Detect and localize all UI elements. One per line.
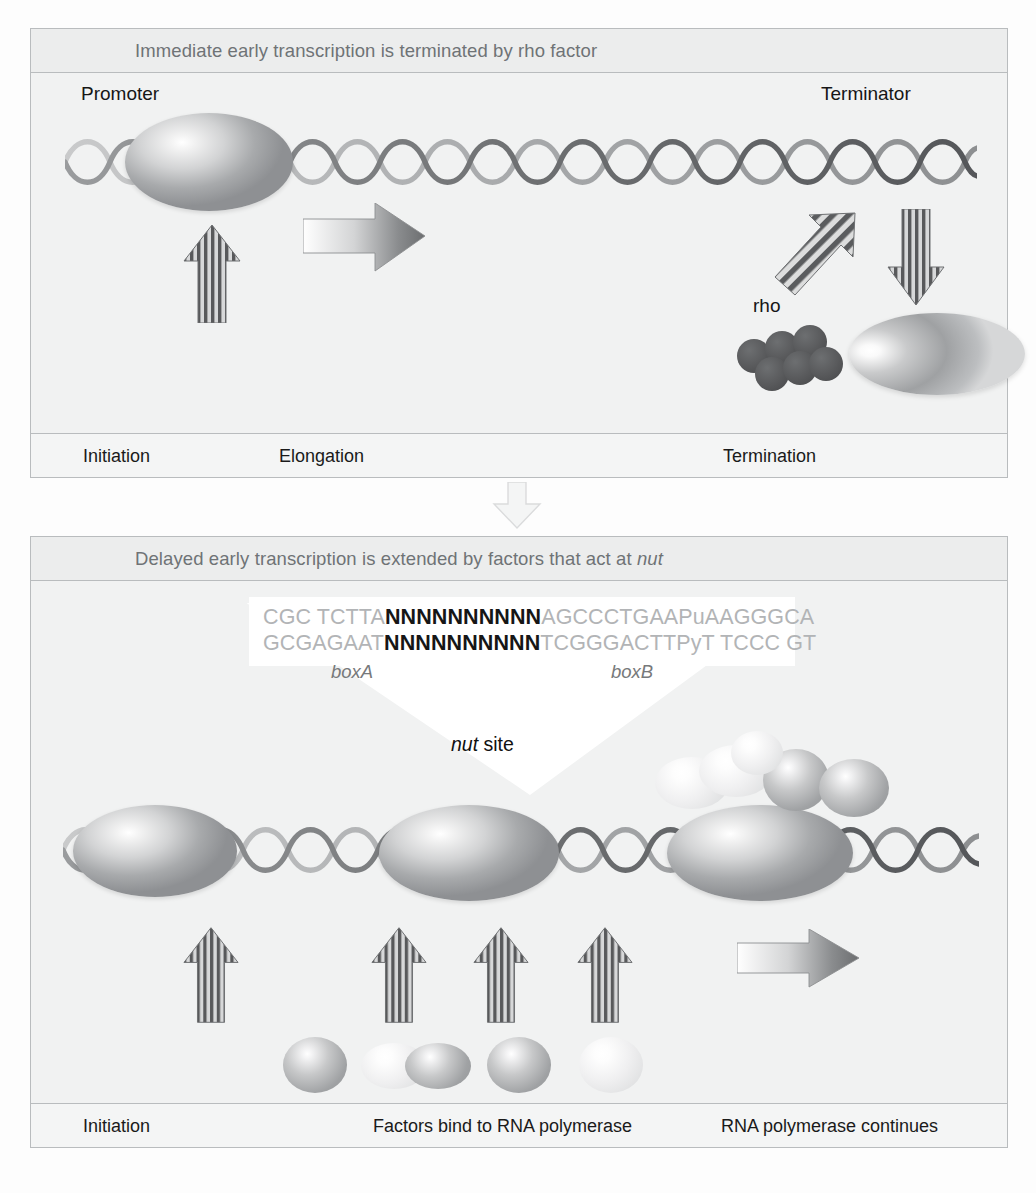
nut-sequence-top-strand: CGC TCTTANNNNNNNNNNAGCCCTGAAPuAAGGGCA	[263, 605, 781, 631]
protein-sphere-pn	[579, 1037, 643, 1093]
gradient-right-arrow-icon	[737, 929, 859, 989]
panel-top-body: Promoter Terminator	[31, 73, 1007, 435]
footer-initiation: Initiation	[83, 1115, 150, 1136]
terminator-label: Terminator	[821, 83, 911, 105]
protein-sphere-nusa	[487, 1037, 551, 1093]
nut-sequence-box: CGC TCTTANNNNNNNNNNAGCCCTGAAPuAAGGGCA GC…	[249, 597, 795, 666]
panel-bottom-title-italic: nut	[637, 548, 663, 569]
figure-canvas: Immediate early transcription is termina…	[0, 0, 1036, 1193]
bound-factor-nusg-icon	[731, 731, 783, 775]
transition-down-arrow-icon	[488, 482, 546, 534]
striped-up-arrow-icon	[183, 927, 239, 1023]
boxB-label: boxB	[611, 661, 653, 683]
footer-initiation: Initiation	[83, 445, 150, 466]
panel-top-footer: Initiation Elongation Termination	[31, 433, 1007, 477]
protein-sphere-nusg	[283, 1037, 347, 1093]
panel-bottom-title-bar: Delayed early transcription is extended …	[31, 537, 1007, 581]
footer-factors-bind: Factors bind to RNA polymerase	[373, 1115, 632, 1136]
protein-sphere-s10	[405, 1043, 471, 1089]
striped-down-arrow-icon	[887, 209, 945, 305]
panel-immediate-early: Immediate early transcription is termina…	[30, 28, 1008, 478]
nut-site-label: nut site	[451, 733, 514, 756]
rho-body-ellipse-icon	[849, 313, 1025, 395]
panel-bottom-body: CGC TCTTANNNNNNNNNNAGCCCTGAAPuAAGGGCA GC…	[31, 581, 1007, 1105]
panel-top-title-bar: Immediate early transcription is termina…	[31, 29, 1007, 73]
panel-top-title: Immediate early transcription is termina…	[83, 40, 597, 62]
rna-polymerase-ellipse-icon	[125, 113, 293, 211]
panel-bottom-footer: Initiation Factors bind to RNA polymeras…	[31, 1103, 1007, 1147]
panel-bottom-title: Delayed early transcription is extended …	[83, 548, 663, 570]
striped-up-arrow-icon	[473, 927, 529, 1023]
footer-termination: Termination	[723, 445, 816, 466]
panel-delayed-early: Delayed early transcription is extended …	[30, 536, 1008, 1148]
promoter-label: Promoter	[81, 83, 159, 105]
bound-factor-pn-icon	[819, 759, 889, 817]
nut-sequence-bottom-strand: GCGAGAATNNNNNNNNNNTCGGGACTTPyT TCCC GT	[263, 631, 781, 657]
striped-diagonal-arrow-icon	[773, 209, 859, 301]
boxA-label: boxA	[331, 661, 373, 683]
footer-elongation: Elongation	[279, 445, 364, 466]
striped-up-arrow-icon	[371, 927, 427, 1023]
rna-polymerase-ellipse-icon	[667, 805, 853, 901]
striped-up-arrow-icon	[183, 225, 241, 323]
footer-polymerase-continues: RNA polymerase continues	[721, 1115, 938, 1136]
rho-label: rho	[753, 295, 780, 317]
rho-hexamer-icon	[737, 325, 843, 389]
gradient-right-arrow-icon	[303, 203, 425, 273]
rna-polymerase-ellipse-icon	[73, 805, 237, 897]
rna-polymerase-ellipse-icon	[379, 805, 559, 901]
striped-up-arrow-icon	[577, 927, 633, 1023]
